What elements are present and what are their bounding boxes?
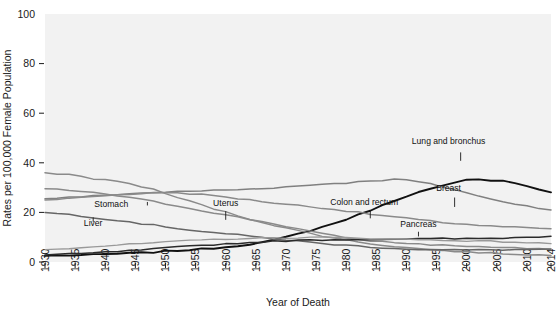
y-axis-ticks — [39, 64, 44, 262]
x-tick-label: 1955 — [189, 248, 201, 272]
x-tick-label: 1985 — [370, 248, 382, 272]
x-axis-ticks — [45, 263, 551, 268]
x-tick-label: 1970 — [280, 248, 292, 272]
series-label: Liver — [84, 218, 103, 228]
y-tick-label: 0 — [29, 256, 35, 268]
x-tick-label: 1930 — [39, 248, 51, 272]
x-tick-label: 1995 — [430, 248, 442, 272]
y-axis-title: Rates per 100,000 Female Population — [1, 49, 13, 226]
y-axis-tick-labels: 020406080100 — [17, 8, 35, 268]
cancer-mortality-chart: 020406080100 193019351940194519501955196… — [0, 0, 557, 313]
series-label: Stomach — [94, 199, 128, 209]
series-label: Breast — [436, 183, 461, 193]
series-label: Uterus — [213, 198, 238, 208]
y-tick-label: 40 — [23, 157, 35, 169]
x-axis-title: Year of Death — [266, 296, 330, 308]
x-tick-label: 1975 — [310, 248, 322, 272]
x-tick-label: 1965 — [250, 248, 262, 272]
x-tick-label: 1990 — [400, 248, 412, 272]
y-tick-label: 60 — [23, 107, 35, 119]
y-tick-label: 20 — [23, 206, 35, 218]
x-tick-label: 1935 — [69, 248, 81, 272]
x-tick-label: 1960 — [220, 248, 232, 272]
x-tick-label: 2010 — [521, 248, 533, 272]
x-tick-label: 1980 — [340, 248, 352, 272]
series-label: Pancreas — [400, 219, 436, 229]
y-tick-label: 100 — [17, 8, 35, 20]
chart-canvas: 020406080100 193019351940194519501955196… — [0, 0, 557, 313]
series-label: Lung and bronchus — [412, 136, 486, 146]
x-tick-label: 2014 — [545, 248, 557, 272]
series-label: Colon and rectum — [330, 197, 398, 207]
y-tick-label: 80 — [23, 57, 35, 69]
